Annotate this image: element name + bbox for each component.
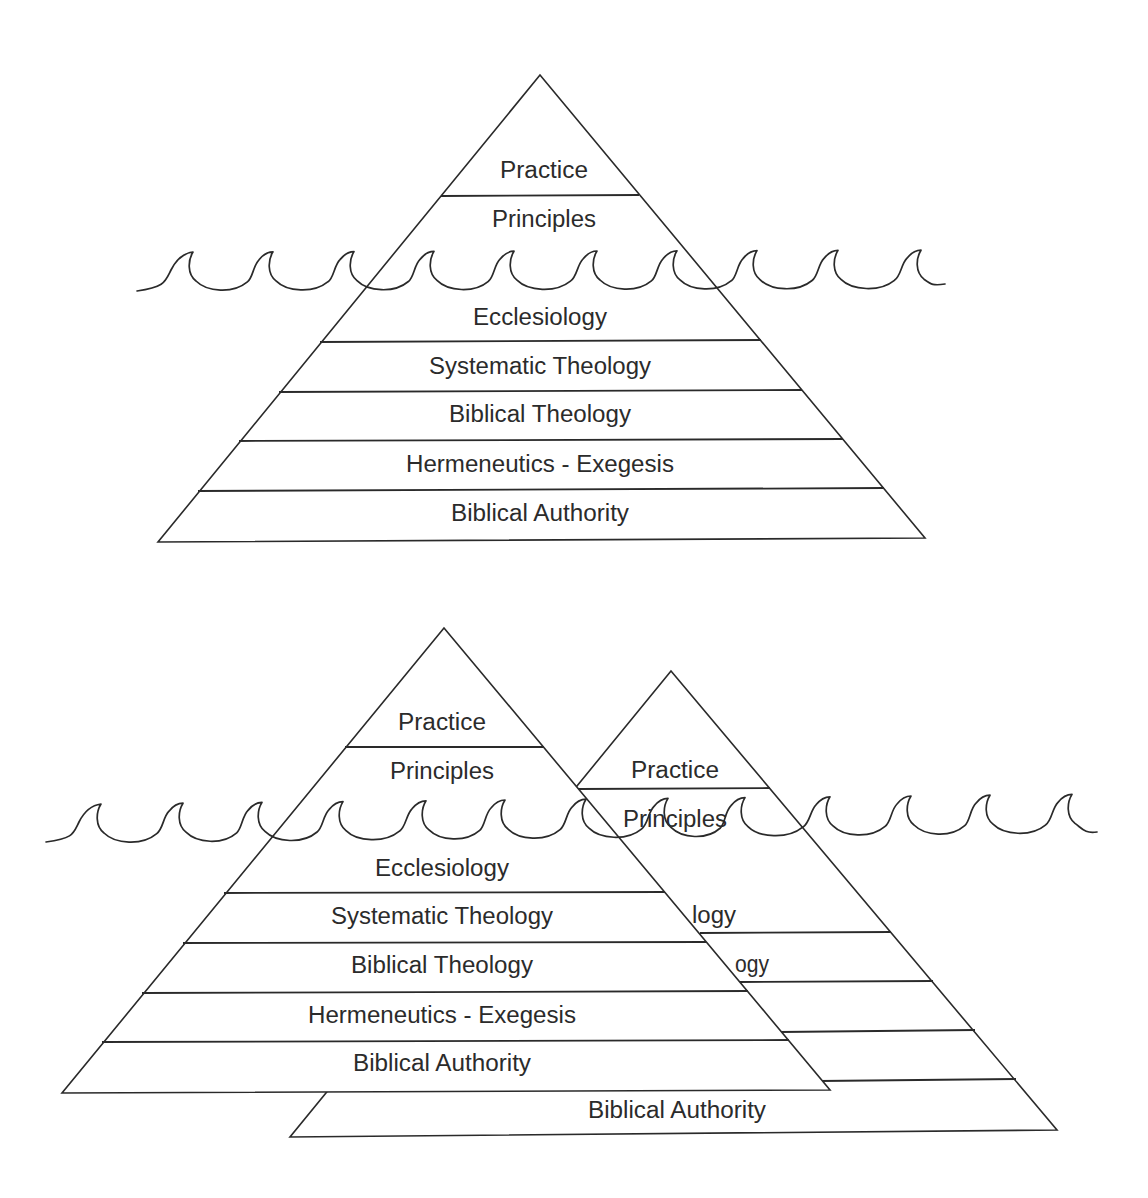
front-divider-ecclesiology [224,892,665,893]
front-label-biblical-authority: Biblical Authority [353,1050,532,1076]
top-label-biblical-theology: Biblical Theology [449,401,632,427]
top-divider-practice [441,195,639,196]
top-label-practice: Practice [500,157,588,183]
back-divider-systematic [700,932,891,933]
top-label-hermeneutics-exegesis: Hermeneutics - Exegesis [406,451,674,477]
front-label-principles: Principles [390,758,494,784]
front-label-ecclesiology: Ecclesiology [375,855,510,881]
back-divider-biblical-theology [740,981,933,982]
front-label-hermeneutics-exegesis: Hermeneutics - Exegesis [308,1002,576,1028]
top-label-ecclesiology: Ecclesiology [473,304,608,330]
back-label-biblical-theology-partial: ogy [735,951,769,977]
top-label-biblical-authority: Biblical Authority [451,500,630,526]
front-label-systematic-theology: Systematic Theology [331,903,554,929]
bottom-iceberg-pyramids: Practice Principles logy ogy Biblical Au… [46,628,1097,1137]
front-label-practice: Practice [398,709,486,735]
back-label-practice: Practice [631,757,719,783]
diagram-canvas: Practice Principles Ecclesiology Systema… [0,0,1148,1198]
back-label-principles: Principles [623,806,727,832]
top-iceberg-pyramid: Practice Principles Ecclesiology Systema… [137,75,945,542]
back-label-systematic-theology-partial: logy [692,902,737,928]
back-label-biblical-authority: Biblical Authority [588,1097,767,1123]
top-label-principles: Principles [492,206,596,232]
front-label-biblical-theology: Biblical Theology [351,952,534,978]
back-divider-practice [578,788,770,789]
top-label-systematic-theology: Systematic Theology [429,353,652,379]
front-divider-systematic [183,942,706,943]
